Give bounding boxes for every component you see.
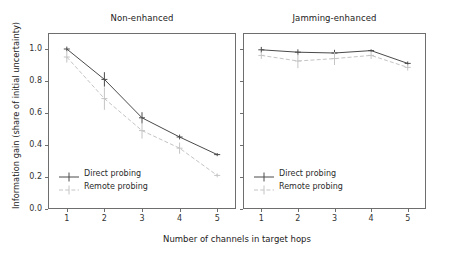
legend-1: Direct probingRemote probing [253, 167, 343, 193]
legend-label: Remote probing [279, 182, 343, 191]
legend-swatch-icon [253, 181, 275, 193]
legend-item-direct-probing[interactable]: Direct probing [253, 167, 343, 180]
series-remote-probing [258, 52, 410, 71]
legend-swatch-icon [253, 168, 275, 180]
legend-label: Direct probing [279, 169, 336, 178]
figure-canvas: Information gain (share of initial uncer… [0, 0, 449, 257]
series-layer-1 [0, 0, 449, 257]
legend-item-remote-probing[interactable]: Remote probing [253, 180, 343, 193]
